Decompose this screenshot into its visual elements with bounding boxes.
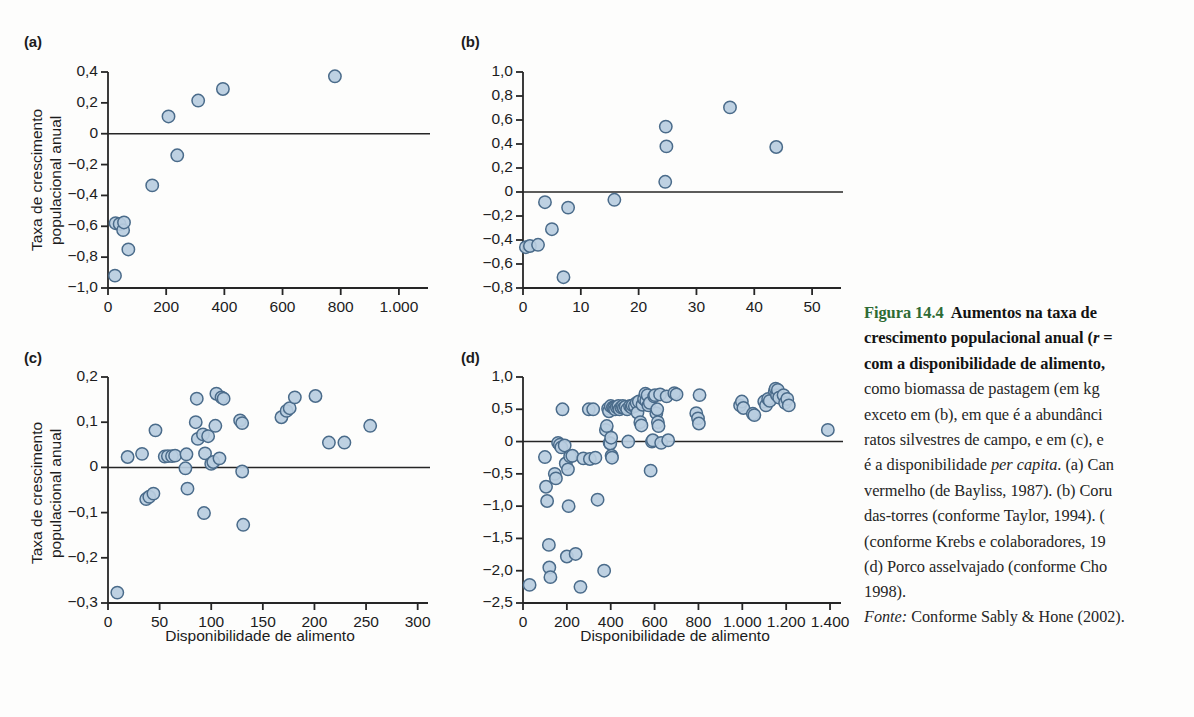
figure-caption: Figura 14.4 Aumentos na taxa de crescime… — [864, 300, 1194, 630]
y-tick-label: −1,5 — [457, 528, 513, 546]
data-point — [532, 239, 544, 251]
y-tick-label: −0,4 — [457, 230, 513, 248]
caption-line-11: (d) Porco asselvajado (conforme Cho — [864, 554, 1194, 579]
caption-line-3: com a disponibilidade de alimento, — [864, 351, 1194, 376]
y-tick-label: 0,4 — [42, 62, 98, 80]
data-points — [523, 382, 834, 593]
y-tick-label: −0,5 — [457, 464, 513, 482]
y-tick-label: −0,1 — [42, 503, 98, 521]
data-point — [147, 487, 159, 499]
x-tick-label: 0 — [76, 298, 140, 316]
data-point — [546, 223, 558, 235]
caption-line-5: exceto em (b), em que é a abundânci — [864, 402, 1194, 427]
y-tick-label: −0,8 — [42, 247, 98, 265]
figure-root: (a) Taxa de crescimentopopulacional anua… — [0, 0, 1194, 717]
x-tick-label: 800 — [309, 298, 373, 316]
caption-line-1: Figura 14.4 Aumentos na taxa de — [864, 300, 1194, 325]
y-tick-label: 1,0 — [457, 367, 513, 385]
data-point — [644, 464, 656, 476]
y-tick-label: −2,0 — [457, 561, 513, 579]
y-tick-label: 0,4 — [457, 134, 513, 152]
data-point — [608, 194, 620, 206]
data-point — [605, 432, 617, 444]
data-point — [539, 196, 551, 208]
data-point — [724, 101, 736, 113]
data-point — [660, 140, 672, 152]
x-tick-label: 300 — [386, 613, 450, 631]
y-tick-label: −0,2 — [42, 155, 98, 173]
source-text: Conforme Sably & Hone (2002). — [907, 608, 1125, 626]
data-point — [237, 519, 249, 531]
data-point — [217, 83, 229, 95]
data-point — [364, 420, 376, 432]
y-tick-label: −2,5 — [457, 593, 513, 611]
data-point — [589, 452, 601, 464]
y-tick-label: −1,0 — [457, 496, 513, 514]
x-tick-label: 0 — [491, 298, 555, 316]
source-label: Fonte: — [864, 608, 907, 626]
data-point — [598, 565, 610, 577]
y-tick-label: 0,5 — [457, 399, 513, 417]
data-point — [169, 449, 181, 461]
panel-a: (a) Taxa de crescimentopopulacional anua… — [0, 0, 460, 330]
data-point — [544, 571, 556, 583]
data-point — [190, 416, 202, 428]
x-tick-label: 200 — [134, 298, 198, 316]
x-tick-label: 40 — [722, 298, 786, 316]
data-point — [662, 434, 674, 446]
data-point — [693, 417, 705, 429]
data-point — [209, 420, 221, 432]
data-point — [543, 539, 555, 551]
y-tick-label: −0,2 — [457, 206, 513, 224]
panel-c: (c) Taxa de crescimentopopulacional anua… — [0, 335, 460, 665]
x-tick-label: 1.000 — [367, 298, 431, 316]
y-tick-label: 0 — [457, 182, 513, 200]
data-point — [606, 452, 618, 464]
y-tick-label: 1,0 — [457, 62, 513, 80]
y-tick-label: 0 — [42, 124, 98, 142]
data-point — [652, 420, 664, 432]
data-point — [111, 586, 123, 598]
panel-b-plot — [455, 0, 875, 330]
x-tick-label: 10 — [549, 298, 613, 316]
data-point — [562, 500, 574, 512]
data-point — [146, 179, 158, 191]
data-point — [574, 581, 586, 593]
caption-line-7: é a disponibilidade per capita. (a) Can — [864, 452, 1194, 477]
data-point — [670, 388, 682, 400]
data-point — [217, 393, 229, 405]
data-point — [236, 465, 248, 477]
data-point — [601, 420, 613, 432]
data-point — [591, 493, 603, 505]
data-point — [659, 176, 671, 188]
data-point — [539, 451, 551, 463]
y-tick-label: 0,6 — [457, 110, 513, 128]
data-point — [289, 391, 301, 403]
data-point — [783, 399, 795, 411]
y-tick-label: 0 — [457, 432, 513, 450]
data-point — [136, 448, 148, 460]
data-point — [323, 436, 335, 448]
data-point — [191, 393, 203, 405]
data-points — [109, 70, 341, 282]
data-points — [111, 388, 376, 599]
figure-number: Figura 14.4 — [864, 303, 944, 322]
x-tick-label: 400 — [192, 298, 256, 316]
x-tick-label: 30 — [664, 298, 728, 316]
data-point — [770, 141, 782, 153]
caption-line-2: crescimento populacional anual (r = — [864, 325, 1194, 350]
x-tick-label: 600 — [251, 298, 315, 316]
panel-d: (d) Disponibilidade de alimento −2,5−2,0… — [455, 335, 875, 665]
data-point — [660, 120, 672, 132]
y-tick-label: −0,2 — [42, 548, 98, 566]
caption-line-10: (conforme Krebs e colaboradores, 19 — [864, 529, 1194, 554]
data-point — [118, 216, 130, 228]
data-point — [556, 403, 568, 415]
y-tick-label: −1,0 — [42, 278, 98, 296]
data-point — [122, 243, 134, 255]
data-point — [149, 424, 161, 436]
data-point — [622, 435, 634, 447]
data-point — [198, 507, 210, 519]
y-tick-label: 0,1 — [42, 412, 98, 430]
data-point — [181, 482, 193, 494]
